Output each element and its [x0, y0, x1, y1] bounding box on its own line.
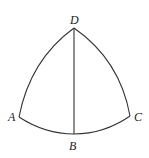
label-C: C [134, 110, 143, 124]
arc-DA [19, 28, 74, 117]
label-A: A [7, 110, 16, 124]
arc-AB [19, 117, 74, 134]
label-D: D [69, 13, 79, 27]
diagram-canvas: D A B C [0, 0, 149, 158]
label-B: B [69, 139, 77, 153]
arc-BC [74, 116, 130, 134]
arc-DC [74, 28, 130, 116]
